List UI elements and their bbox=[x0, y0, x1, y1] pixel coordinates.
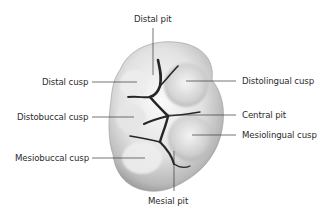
tooth-diagram: Distal pit Distal cusp Distolingual cusp… bbox=[0, 0, 329, 219]
label-central-pit: Central pit bbox=[242, 110, 286, 120]
label-mesiobuccal-cusp: Mesiobuccal cusp bbox=[15, 153, 89, 163]
label-mesiolingual-cusp: Mesiolingual cusp bbox=[242, 130, 317, 140]
label-distal-cusp: Distal cusp bbox=[42, 77, 88, 87]
distal-cusp-shape bbox=[120, 70, 148, 98]
distobuccal-cusp-shape bbox=[116, 104, 146, 132]
label-distobuccal-cusp: Distobuccal cusp bbox=[17, 112, 88, 122]
label-distolingual-cusp: Distolingual cusp bbox=[242, 76, 314, 86]
label-mesial-pit: Mesial pit bbox=[148, 196, 188, 206]
mesiolingual-cusp-shape bbox=[168, 115, 212, 161]
label-distal-pit: Distal pit bbox=[134, 14, 171, 24]
distolingual-cusp-shape bbox=[164, 63, 208, 107]
